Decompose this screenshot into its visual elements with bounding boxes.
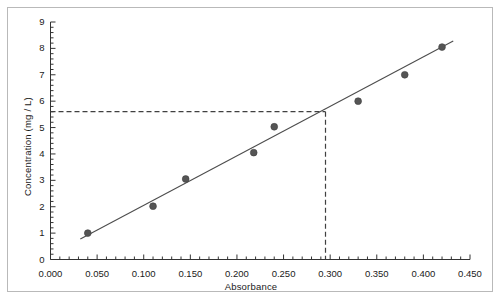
x-tick-label: 0.100 (121, 268, 167, 279)
x-tick-label: 0.450 (447, 268, 493, 279)
data-point (401, 71, 408, 78)
data-point (84, 230, 91, 237)
x-tick-label: 0.000 (28, 268, 74, 279)
y-tick-label: 3 (25, 174, 45, 185)
y-tick-label: 7 (25, 69, 45, 80)
x-axis-ticks (51, 255, 471, 260)
data-point (150, 203, 157, 210)
y-tick-label: 9 (25, 16, 45, 27)
y-axis-ticks (51, 22, 56, 260)
axis-lines (51, 22, 471, 260)
scatter-plot-canvas (0, 0, 502, 301)
y-tick-label: 4 (25, 148, 45, 159)
interpolation-guide-lines (51, 112, 326, 260)
y-tick-label: 5 (25, 122, 45, 133)
x-tick-label: 0.050 (74, 268, 120, 279)
y-tick-label: 2 (25, 201, 45, 212)
x-tick-label: 0.400 (400, 268, 446, 279)
y-tick-label: 1 (25, 227, 45, 238)
x-axis-title: Absorbance (0, 281, 502, 292)
x-tick-label: 0.300 (307, 268, 353, 279)
y-tick-label: 6 (25, 95, 45, 106)
trend-line (80, 41, 453, 239)
data-point (355, 98, 362, 105)
data-point (182, 176, 189, 183)
best-fit-line (80, 41, 453, 239)
y-tick-label: 8 (25, 42, 45, 53)
data-point (271, 123, 278, 130)
chart-figure: Concentration (mg / L) Absorbance 012345… (0, 0, 502, 301)
x-tick-label: 0.250 (261, 268, 307, 279)
data-point (250, 149, 257, 156)
x-tick-label: 0.200 (214, 268, 260, 279)
x-tick-label: 0.350 (354, 268, 400, 279)
x-tick-label: 0.150 (167, 268, 213, 279)
data-point (439, 44, 446, 51)
y-tick-label: 0 (25, 254, 45, 265)
